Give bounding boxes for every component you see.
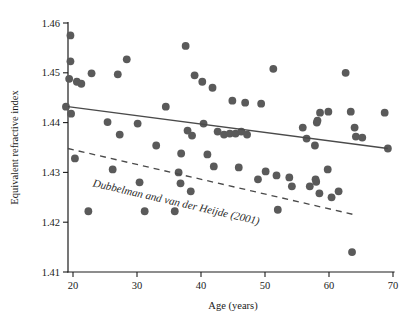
data-point	[381, 109, 389, 117]
data-point	[114, 70, 122, 78]
data-point	[269, 65, 277, 73]
data-point	[177, 179, 185, 187]
data-point	[243, 131, 251, 139]
plot-canvas: 1.411.421.431.441.451.46203040506070 Dub…	[0, 0, 416, 324]
data-point	[274, 206, 282, 214]
data-point	[141, 207, 149, 215]
data-point	[77, 80, 85, 88]
data-point	[162, 103, 170, 111]
x-tick-label: 40	[196, 280, 207, 291]
data-point	[273, 171, 281, 179]
data-point	[316, 189, 324, 197]
trend-lines	[68, 107, 388, 215]
data-point	[204, 151, 212, 159]
regression-line	[68, 107, 388, 149]
data-point	[191, 71, 199, 79]
data-point	[188, 132, 196, 140]
data-point	[347, 108, 355, 116]
x-tick-label: 70	[388, 280, 399, 291]
data-point	[65, 75, 73, 83]
y-tick-label: 1.42	[42, 217, 60, 228]
data-point	[136, 178, 144, 186]
x-tick-label: 30	[132, 280, 143, 291]
data-point	[177, 150, 185, 158]
data-point	[342, 69, 350, 77]
y-axis-title: Equivalent refractive index	[9, 90, 20, 205]
data-point	[324, 108, 332, 116]
data-point	[228, 97, 236, 105]
data-point	[171, 207, 179, 215]
data-point	[299, 124, 307, 132]
data-point	[134, 120, 142, 128]
y-tick-label: 1.43	[42, 167, 60, 178]
data-point	[209, 84, 217, 92]
data-point	[285, 173, 293, 181]
data-point	[306, 182, 314, 190]
data-point	[67, 57, 75, 65]
x-axis-title: Age (years)	[208, 300, 258, 312]
data-point	[182, 42, 190, 50]
x-tick-label: 50	[260, 280, 271, 291]
data-point	[314, 117, 322, 125]
y-tick-label: 1.41	[42, 267, 60, 278]
data-point	[175, 169, 183, 177]
data-point	[88, 69, 96, 77]
data-point	[351, 124, 359, 132]
data-point	[71, 155, 79, 163]
data-point	[109, 166, 117, 174]
reference-line-annotation: Dubbelman and van der Heijde (2001)	[91, 176, 262, 227]
data-point	[67, 32, 75, 40]
scatter-plot-figure: 1.411.421.431.441.451.46203040506070 Dub…	[0, 0, 416, 324]
data-point	[254, 175, 262, 183]
data-point	[288, 182, 296, 190]
data-point-series	[62, 32, 392, 256]
data-point	[316, 109, 324, 117]
y-tick-label: 1.45	[42, 67, 60, 78]
data-point	[187, 187, 195, 195]
x-tick-label: 20	[68, 280, 79, 291]
data-point	[104, 118, 112, 126]
data-point	[198, 78, 206, 86]
data-point	[311, 142, 319, 150]
data-point	[262, 168, 270, 176]
data-point	[116, 131, 124, 139]
data-point	[257, 100, 265, 108]
data-point	[335, 187, 343, 195]
data-point	[324, 166, 332, 174]
data-point	[123, 55, 131, 63]
data-point	[328, 193, 336, 201]
x-tick-label: 60	[324, 280, 335, 291]
data-point	[312, 178, 320, 186]
data-point	[348, 248, 356, 256]
y-tick-label: 1.44	[42, 117, 61, 128]
data-point	[235, 164, 243, 172]
data-point	[210, 163, 218, 171]
reference-line-label: Dubbelman and van der Heijde (2001)	[91, 176, 262, 227]
data-point	[241, 99, 249, 107]
data-point	[152, 142, 160, 150]
data-point	[67, 110, 75, 118]
y-tick-label: 1.46	[42, 18, 60, 29]
data-point	[84, 207, 92, 215]
data-point	[358, 134, 366, 142]
